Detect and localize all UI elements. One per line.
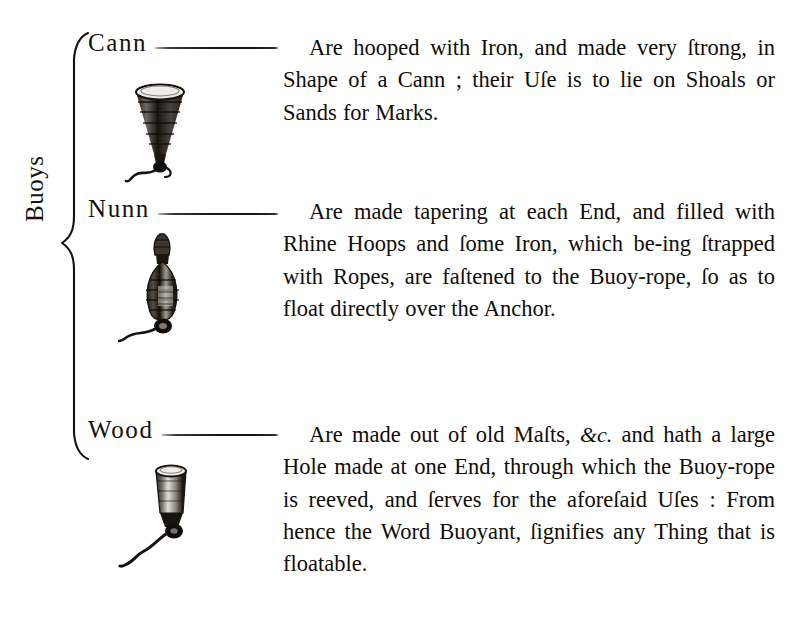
term-label-wrap-nunn: Nunn xyxy=(88,196,278,221)
term-label-wrap-wood: Wood xyxy=(88,417,278,442)
wood-buoy-icon xyxy=(118,455,228,575)
entry-text-wood-before-amp: Are made out of old Maſts, xyxy=(309,422,580,447)
group-label-buoys: Buoys xyxy=(18,72,52,222)
entry-paragraph-nunn: Are made tapering at each End, and fille… xyxy=(283,196,775,325)
entry-paragraph-wood: Are made out of old Maſts, &c. and hath … xyxy=(283,419,775,580)
nunn-buoy-illustration xyxy=(118,228,218,357)
term-rule-cann xyxy=(155,41,278,51)
entry-text-nunn: Are made tapering at each End, and fille… xyxy=(283,196,775,325)
entry-text-cann: Are hooped with Iron, and made very ſtro… xyxy=(283,32,775,129)
group-brace xyxy=(58,30,92,462)
cann-buoy-icon xyxy=(118,78,210,186)
nunn-buoy-icon xyxy=(118,228,218,353)
term-label-wood: Wood xyxy=(88,417,154,442)
term-rule-wood xyxy=(162,428,279,438)
term-rule-nunn xyxy=(158,207,278,217)
term-label-nunn: Nunn xyxy=(88,196,150,221)
document-page: Buoys Cann xyxy=(0,0,809,620)
brace-icon xyxy=(58,30,92,462)
ampersand-ornament: &c. xyxy=(580,422,612,447)
wood-buoy-illustration xyxy=(118,455,228,579)
entry-paragraph-cann: Are hooped with Iron, and made very ſtro… xyxy=(283,32,775,129)
cann-buoy-illustration xyxy=(118,78,210,190)
entry-text-wood: Are made out of old Maſts, &c. and hath … xyxy=(283,419,775,580)
term-label-wrap-cann: Cann xyxy=(88,30,278,55)
term-label-cann: Cann xyxy=(88,30,147,55)
